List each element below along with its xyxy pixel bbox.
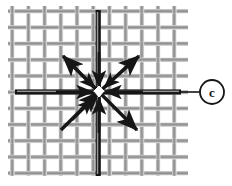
callout-c: c bbox=[181, 80, 224, 104]
figure-container: c bbox=[0, 0, 232, 186]
callout-label: c bbox=[209, 85, 215, 100]
wire-mesh-diagram: c bbox=[0, 0, 232, 186]
